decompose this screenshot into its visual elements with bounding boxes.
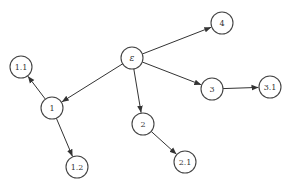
node-n4: 4 <box>211 12 233 34</box>
node-n2_1: 2.1 <box>174 151 196 173</box>
node-n1_2: 1.2 <box>66 156 88 178</box>
edge-n1-to-n1_1 <box>28 76 46 99</box>
edge-n3-to-n3_1 <box>223 87 259 88</box>
node-label: 1.2 <box>71 163 84 172</box>
node-n3_1: 3.1 <box>259 76 281 98</box>
node-n3: 3 <box>201 78 223 100</box>
node-n1_1: 1.1 <box>10 56 32 78</box>
node-label: ε <box>130 53 135 63</box>
node-label: 3.1 <box>264 83 277 92</box>
node-n2: 2 <box>132 113 154 135</box>
nodes-layer: ε11.11.222.133.14 <box>10 12 281 178</box>
edge-root-to-n1 <box>62 64 123 102</box>
node-label: 2.1 <box>179 158 192 167</box>
edges-layer <box>28 27 259 156</box>
node-label: 2 <box>140 120 145 129</box>
edge-root-to-n4 <box>142 27 211 54</box>
edge-n1-to-n1_2 <box>56 118 72 156</box>
node-label: 1.1 <box>15 63 28 72</box>
node-root: ε <box>121 47 143 69</box>
node-n1: 1 <box>41 97 63 119</box>
edge-root-to-n3 <box>142 62 201 85</box>
node-label: 4 <box>219 19 224 28</box>
tree-diagram: ε11.11.222.133.14 <box>0 0 291 186</box>
node-label: 1 <box>49 104 54 113</box>
node-label: 3 <box>209 85 214 94</box>
edge-n2-to-n2_1 <box>151 131 176 154</box>
edge-root-to-n2 <box>134 69 141 113</box>
